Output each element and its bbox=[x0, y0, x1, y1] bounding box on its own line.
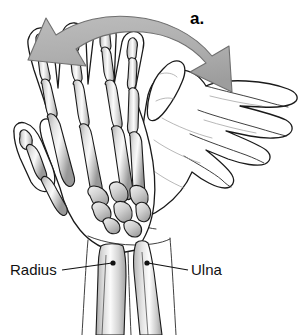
ulna-leader-dot bbox=[144, 260, 149, 265]
anatomy-figure: Radius Ulna a. bbox=[0, 0, 305, 335]
ulna-label: Ulna bbox=[191, 261, 223, 278]
radius-bone bbox=[96, 244, 126, 335]
radius-label: Radius bbox=[10, 261, 57, 278]
panel-label: a. bbox=[190, 9, 204, 28]
radius-leader-dot bbox=[110, 260, 115, 265]
proximal-phalanx bbox=[127, 88, 139, 135]
middle-phalanx bbox=[127, 58, 137, 90]
figure-canvas: Radius Ulna a. bbox=[0, 0, 305, 335]
